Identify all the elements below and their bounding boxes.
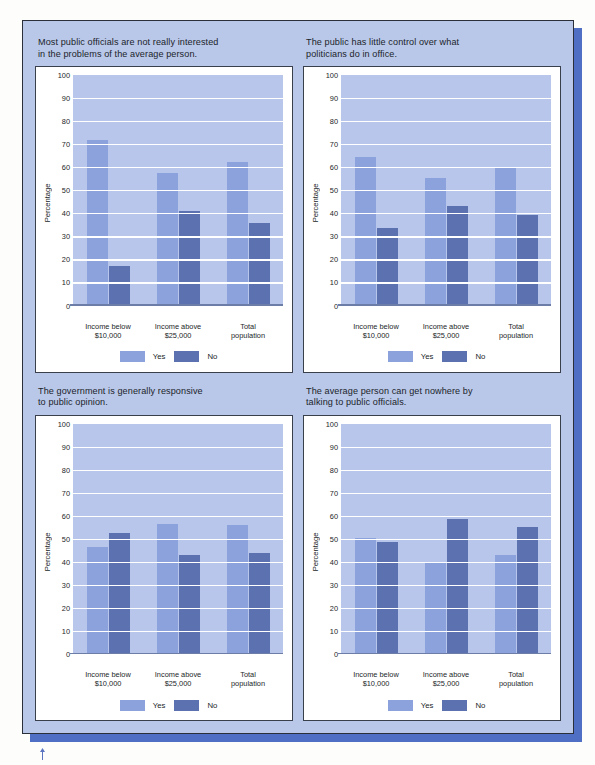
gridline	[341, 98, 551, 99]
plot-row: Percentage 1009080706050403020100	[42, 424, 283, 667]
bar-no[interactable]	[179, 211, 200, 305]
bar-yes[interactable]	[425, 178, 446, 306]
x-tick-label: Income below $10,000	[73, 667, 143, 691]
legend-label-no: No	[475, 352, 485, 361]
bar-yes[interactable]	[355, 538, 376, 654]
legend-swatch-no-icon	[442, 351, 467, 362]
gridline	[73, 447, 283, 448]
bar-yes[interactable]	[227, 525, 248, 654]
y-tick-label: 100	[58, 71, 70, 80]
bar-yes[interactable]	[495, 555, 516, 654]
page-corner-mark-icon	[38, 748, 47, 760]
legend-item-yes: Yes	[120, 351, 166, 362]
chart-card-4[interactable]: Percentage 1009080706050403020100 Income…	[303, 415, 561, 721]
chart-card-2[interactable]: Percentage 1009080706050403020100 Income…	[303, 66, 561, 372]
y-tick-label: 20	[62, 603, 70, 612]
gridline	[73, 190, 283, 191]
bar-no[interactable]	[447, 206, 468, 305]
bar-no[interactable]	[249, 553, 270, 654]
y-tick-label: 20	[330, 255, 338, 264]
gridline	[341, 121, 551, 122]
y-tick-label: 50	[330, 186, 338, 195]
y-tick-label: 0	[66, 301, 70, 310]
legend-label-yes: Yes	[153, 701, 166, 710]
plot-wrapper	[341, 424, 551, 667]
y-tick-label: 60	[330, 163, 338, 172]
gridline	[73, 470, 283, 471]
chart-inner-4: Percentage 1009080706050403020100 Income…	[304, 416, 560, 720]
x-axis-labels: Income below $10,000Income above $25,000…	[42, 319, 283, 343]
gridline	[341, 539, 551, 540]
y-tick-label: 50	[62, 186, 70, 195]
gridline	[341, 516, 551, 517]
y-tick-label: 60	[330, 511, 338, 520]
bar-no[interactable]	[377, 228, 398, 305]
x-tick-label: Total population	[481, 319, 551, 343]
y-tick-label: 30	[62, 580, 70, 589]
gridline	[73, 608, 283, 609]
y-axis-label: Percentage	[42, 424, 53, 667]
gridline	[73, 98, 283, 99]
axis-origin-tick	[338, 304, 341, 305]
charts-grid: Most public officials are not really int…	[23, 21, 573, 733]
chart-cell-1: Most public officials are not really int…	[35, 32, 293, 373]
bar-yes[interactable]	[157, 173, 178, 305]
gridline	[341, 144, 551, 145]
y-tick-label: 70	[330, 140, 338, 149]
legend-swatch-no-icon	[174, 351, 199, 362]
gridline	[341, 493, 551, 494]
y-tick-label: 100	[58, 419, 70, 428]
plot-row: Percentage 1009080706050403020100	[310, 75, 551, 318]
chart-legend: Yes No	[42, 343, 283, 367]
bar-no[interactable]	[179, 555, 200, 654]
y-tick-label: 20	[62, 255, 70, 264]
chart-cell-3: The government is generally responsive t…	[35, 381, 293, 722]
bar-no[interactable]	[109, 533, 130, 654]
x-axis-line	[73, 653, 283, 654]
plot-area	[73, 75, 283, 305]
x-tick-label: Income below $10,000	[341, 667, 411, 691]
chart-card-3[interactable]: Percentage 1009080706050403020100 Income…	[35, 415, 293, 721]
y-axis-label: Percentage	[310, 424, 321, 667]
gridline	[73, 236, 283, 237]
bar-yes[interactable]	[87, 547, 108, 654]
bar-yes[interactable]	[157, 524, 178, 654]
y-axis-ticks: 1009080706050403020100	[53, 424, 73, 667]
gridline	[341, 447, 551, 448]
chart-card-1[interactable]: Percentage 1009080706050403020100 Income…	[35, 66, 293, 372]
axis-origin-tick	[338, 653, 341, 654]
y-tick-label: 60	[62, 163, 70, 172]
legend-label-no: No	[207, 701, 217, 710]
bar-no[interactable]	[109, 266, 130, 305]
y-tick-label: 40	[62, 209, 70, 218]
figure-panel: Most public officials are not really int…	[22, 20, 574, 734]
y-tick-label: 10	[62, 278, 70, 287]
bar-yes[interactable]	[87, 140, 108, 306]
gridline	[73, 539, 283, 540]
y-axis-ticks: 1009080706050403020100	[53, 75, 73, 318]
bar-no[interactable]	[377, 542, 398, 654]
chart-legend: Yes No	[310, 343, 551, 367]
bar-yes[interactable]	[227, 162, 248, 306]
gridline	[341, 470, 551, 471]
x-tick-label: Total population	[213, 667, 283, 691]
plot-wrapper	[341, 75, 551, 318]
gridline	[341, 259, 551, 260]
y-tick-label: 30	[330, 232, 338, 241]
y-tick-label: 40	[330, 557, 338, 566]
page-canvas: Most public officials are not really int…	[0, 0, 595, 765]
chart-cell-2: The public has little control over what …	[303, 32, 561, 373]
gridline	[73, 213, 283, 214]
gridline	[341, 167, 551, 168]
chart-inner-1: Percentage 1009080706050403020100 Income…	[36, 67, 292, 371]
y-tick-label: 30	[330, 580, 338, 589]
plot-area	[341, 424, 551, 654]
x-axis-line	[341, 304, 551, 305]
bar-no[interactable]	[249, 223, 270, 306]
y-tick-label: 0	[334, 650, 338, 659]
bar-no[interactable]	[517, 527, 538, 654]
x-axis-labels: Income below $10,000Income above $25,000…	[310, 319, 551, 343]
x-tick-label: Income above $25,000	[411, 319, 481, 343]
plot-wrapper	[73, 75, 283, 318]
y-tick-label: 10	[330, 278, 338, 287]
